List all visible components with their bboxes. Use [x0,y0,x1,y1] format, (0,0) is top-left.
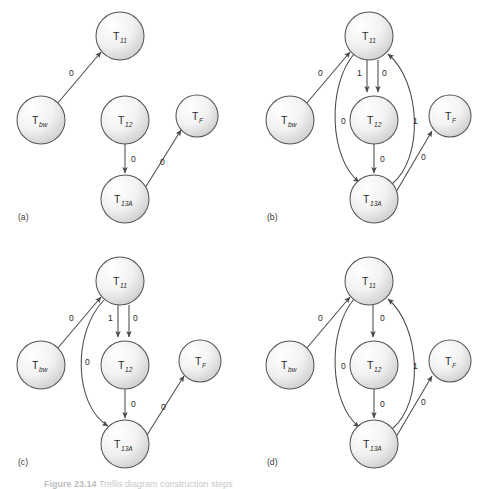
edge-tbw-to-t11 [306,297,350,349]
node-t11-label: T [362,30,369,42]
edge-label-tbw-to-t11: 0 [318,313,323,323]
node-tbw-label: T [281,359,288,371]
node-t13a[interactable] [101,175,149,223]
node-t13a-label: T [114,193,121,205]
node-t13a[interactable] [350,420,398,468]
node-tbw[interactable] [17,96,65,144]
node-t11[interactable] [96,257,144,305]
edge-label-t12-to-t13a: 0 [380,154,385,164]
node-t11-label: T [362,275,369,287]
edge-label-t11-to-t12-right: 0 [133,313,138,323]
edge-label-t11-to-t12: 0 [380,313,385,323]
node-t12-sublabel: 12 [374,121,382,128]
node-t12[interactable] [101,96,149,144]
panel-d: T 11 T bw T 12 T F T 13A 0 0 0 1 0 0 (d) [249,245,497,489]
node-t11[interactable] [345,12,393,60]
node-t11-sublabel: 11 [369,37,376,44]
edge-label-tbw-to-t11: 0 [69,68,74,78]
node-t11-sublabel: 11 [120,37,127,44]
node-tbw[interactable] [17,341,65,389]
edge-label-t13a-to-tf: 0 [421,152,426,162]
edge-label-t13a-to-tf: 0 [421,397,426,407]
figure-caption-text: Trellis diagram construction steps [99,479,233,489]
node-t12-label: T [367,114,374,126]
figure-caption-number: Figure 23.14 [44,479,97,489]
node-tbw[interactable] [266,96,314,144]
panel-b-diagram: T 11 T bw T 12 T F T 13A 0 1 0 0 1 0 0 (… [249,0,497,244]
node-t11-sublabel: 11 [369,282,376,289]
node-tbw-label: T [32,114,39,126]
node-tf-label: T [195,355,202,367]
node-t12-label: T [367,359,374,371]
node-t11-label: T [113,275,120,287]
edge-label-t11-to-t13a-curve: 0 [341,116,346,126]
node-t12-label: T [118,114,125,126]
panel-d-tag: (d) [267,457,278,467]
edge-tbw-to-t11 [306,52,350,104]
node-t11-sublabel: 11 [120,282,127,289]
node-t11[interactable] [96,12,144,60]
node-t13a[interactable] [101,420,149,468]
node-t13a-sublabel: 13A [370,200,382,207]
node-t12[interactable] [350,341,398,389]
node-t12-sublabel: 12 [125,366,133,373]
edge-label-t13a-to-t11-curve: 1 [413,361,418,371]
figure-container: T 11 T bw T 12 T F T 13A 0 0 0 (a) [0,0,497,489]
panel-a-diagram: T 11 T bw T 12 T F T 13A 0 0 0 (a) [0,0,248,244]
panel-c: T 11 T bw T 12 T F T 13A 0 1 0 0 0 0 (c) [0,245,248,489]
node-tf-label: T [445,110,452,122]
edge-label-t12-to-t13a: 0 [131,399,136,409]
node-tbw-sublabel: bw [288,121,298,128]
panel-a-tag: (a) [18,212,29,222]
node-tbw-sublabel: bw [39,366,49,373]
panel-a: T 11 T bw T 12 T F T 13A 0 0 0 (a) [0,0,248,244]
panel-b: T 11 T bw T 12 T F T 13A 0 1 0 0 1 0 0 (… [249,0,497,244]
panel-c-diagram: T 11 T bw T 12 T F T 13A 0 1 0 0 0 0 (c) [0,245,248,489]
node-t12-sublabel: 12 [374,366,382,373]
edge-label-t11-to-t12-left: 1 [357,68,362,78]
node-tf-label: T [445,355,452,367]
node-tbw-sublabel: bw [288,366,298,373]
node-t13a-sublabel: 13A [121,200,133,207]
node-tbw-label: T [281,114,288,126]
edge-t13a-to-tf [396,376,432,437]
edge-label-tbw-to-t11: 0 [318,68,323,78]
panel-d-diagram: T 11 T bw T 12 T F T 13A 0 0 0 1 0 0 (d) [249,245,497,489]
edge-label-t12-to-t13a: 0 [380,399,385,409]
edge-label-t13a-to-tf: 0 [160,157,165,167]
edge-label-tbw-to-t11: 0 [69,313,74,323]
edge-label-t13a-to-t11-curve: 1 [413,116,418,126]
figure-caption: Figure 23.14 Trellis diagram constructio… [44,479,484,489]
node-tbw[interactable] [266,341,314,389]
node-t13a-label: T [363,438,370,450]
edge-label-t13a-to-tf: 0 [161,402,166,412]
node-t13a[interactable] [350,175,398,223]
panel-b-tag: (b) [267,212,278,222]
edge-label-t11-to-t13a-curve: 0 [85,357,90,367]
edge-label-t12-to-t13a: 0 [131,154,136,164]
node-t11[interactable] [345,257,393,305]
edge-tbw-to-t11 [57,52,101,104]
edge-label-t11-to-t12-left: 1 [108,313,113,323]
node-t12[interactable] [101,341,149,389]
node-t13a-label: T [363,193,370,205]
edge-label-t11-to-t13a-curve: 0 [341,361,346,371]
panel-c-tag: (c) [18,457,28,467]
node-t13a-sublabel: 13A [370,445,382,452]
node-t13a-label: T [114,438,121,450]
node-tbw-label: T [32,359,39,371]
node-t11-label: T [113,30,120,42]
node-t12-sublabel: 12 [125,121,133,128]
node-t12[interactable] [350,96,398,144]
node-tf-label: T [192,110,199,122]
node-t12-label: T [118,359,125,371]
edge-tbw-to-t11 [57,297,101,349]
node-tbw-sublabel: bw [39,121,49,128]
edge-t13a-to-tf [396,131,432,192]
edge-label-t11-to-t12-right: 0 [382,68,387,78]
node-t13a-sublabel: 13A [121,445,133,452]
